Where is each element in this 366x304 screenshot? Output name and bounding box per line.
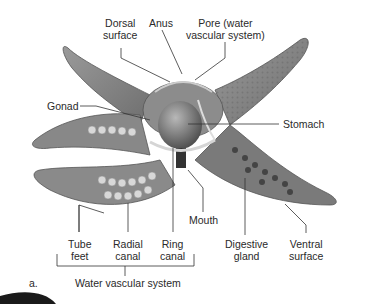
next-panel-edge xyxy=(0,292,56,304)
label-anus: Anus xyxy=(149,17,173,29)
label-digestive-gland: Digestive gland xyxy=(225,238,268,262)
label-tube-feet: Tube feet xyxy=(68,238,92,262)
stomach xyxy=(158,101,202,149)
label-radial-canal: Radial canal xyxy=(113,238,143,262)
label-stomach: Stomach xyxy=(283,118,324,130)
label-water-vascular-system: Water vascular system xyxy=(75,277,181,289)
label-dorsal-surface: Dorsal surface xyxy=(103,17,137,41)
label-ring-canal: Ring canal xyxy=(160,238,185,262)
panel-letter: a. xyxy=(29,277,38,289)
arm-lower-right xyxy=(195,125,336,205)
label-ventral-surface: Ventral surface xyxy=(289,238,323,262)
label-gonad: Gonad xyxy=(47,100,79,112)
label-mouth: Mouth xyxy=(189,214,218,226)
arm-upper-left xyxy=(63,46,150,125)
label-pore: Pore (water vascular system) xyxy=(186,17,265,41)
